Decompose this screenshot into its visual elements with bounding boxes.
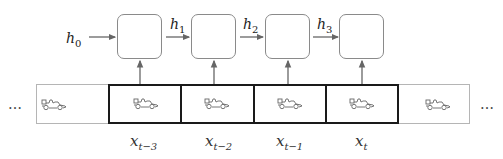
ellipsis-left: … <box>8 96 23 112</box>
hidden-state-label-h3: h3 <box>317 17 332 35</box>
race-car-icon <box>41 97 67 111</box>
input-label-x-t-3: xt−3 <box>130 134 157 152</box>
input-label-x-t-1: xt−1 <box>276 134 303 152</box>
frame-input-t <box>325 84 399 124</box>
race-car-icon <box>425 97 451 111</box>
rnn-cell-1 <box>117 14 162 59</box>
race-car-icon <box>277 96 303 110</box>
frame-input-t-1 <box>253 84 328 124</box>
frame-context-left <box>36 84 110 124</box>
rnn-cell-3 <box>265 14 310 59</box>
input-label-x-t: xt <box>355 134 368 152</box>
hidden-state-label-h1: h1 <box>170 17 185 35</box>
input-label-x-t-2: xt−2 <box>205 134 232 152</box>
hidden-state-label-h2: h2 <box>243 17 258 35</box>
frame-input-t-3 <box>108 84 183 124</box>
rnn-cell-4 <box>339 14 384 59</box>
frame-input-t-2 <box>180 84 255 124</box>
race-car-icon <box>133 96 159 110</box>
frame-context-right <box>396 84 470 124</box>
ellipsis-right: … <box>480 96 495 112</box>
hidden-state-label-h0: h0 <box>66 31 81 49</box>
race-car-icon <box>349 96 375 110</box>
race-car-icon <box>204 96 230 110</box>
rnn-cell-2 <box>191 14 236 59</box>
